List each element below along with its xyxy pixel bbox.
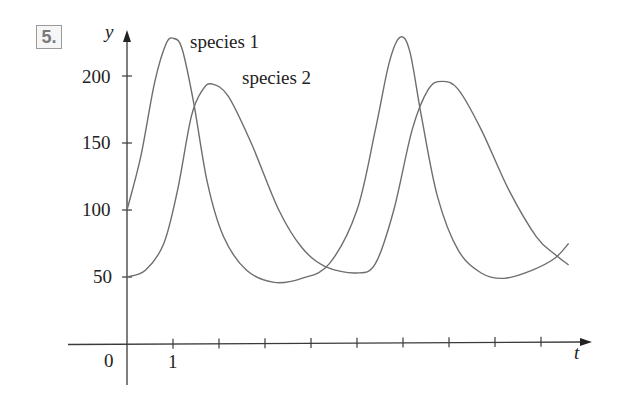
series-line-species-1 [127,37,569,283]
x-axis-arrow-icon [580,338,592,346]
x-axis-label: t [574,342,579,364]
y-tick-label-200: 200 [82,66,111,88]
origin-label: 0 [104,350,114,372]
y-tick-label-150: 150 [82,132,111,154]
x-tick-label-1: 1 [168,351,178,373]
species-2-annotation: species 2 [242,67,311,89]
x-axis-line [68,342,582,345]
y-axis-label: y [105,21,113,43]
axes [68,30,592,385]
species-1-annotation: species 1 [190,31,259,53]
series-lines [127,37,569,283]
y-tick-label-100: 100 [82,199,111,221]
y-tick-label-50: 50 [93,266,112,288]
y-axis-arrow-icon [123,30,131,42]
series-line-species-2 [127,81,569,277]
